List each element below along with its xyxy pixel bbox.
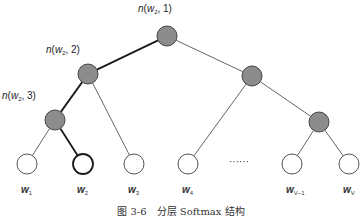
leaf-label-w4: w4 <box>182 184 193 196</box>
leaf-label-w2: w2 <box>77 184 88 196</box>
hierarchical-softmax-diagram: n(w2, 1)n(w2, 2)n(w2, 3)w1w2w3w4wV−1wV ·… <box>0 0 362 218</box>
ellipsis: ······ <box>229 156 249 167</box>
inner-node-root <box>157 26 177 46</box>
edge-r1-r2 <box>260 82 311 117</box>
edge-root-r1 <box>176 40 243 71</box>
leaf-node-w4 <box>178 154 198 174</box>
node-label-root: n(w2, 1) <box>138 3 172 15</box>
leaf-label-wV: wV <box>343 184 355 196</box>
inner-node-n2 <box>78 64 98 84</box>
node-label-n2: n(w2, 2) <box>46 44 80 56</box>
leaf-label-w1: w1 <box>21 184 32 196</box>
edge-n2-n3 <box>61 82 82 112</box>
leaf-label-w3: w3 <box>128 184 139 196</box>
figure-caption: 图 3-6 分层 Softmax 结构 <box>0 203 362 218</box>
edge-r1-w4 <box>194 84 246 156</box>
tree-graph <box>0 0 362 218</box>
edge-root-n2 <box>97 40 158 69</box>
edge-r2-wV-1 <box>297 130 313 155</box>
edge-n2-w3 <box>93 83 130 155</box>
inner-node-r2 <box>309 112 329 132</box>
leaf-node-w2 <box>73 154 93 174</box>
leaf-label-wV-1: wV−1 <box>286 184 305 196</box>
leaf-node-w1 <box>17 154 37 174</box>
edge-n3-w2 <box>60 128 77 155</box>
node-label-n3: n(w2, 3) <box>2 90 36 102</box>
inner-node-r1 <box>242 66 262 86</box>
leaf-node-wV <box>339 154 359 174</box>
edge-n3-w1 <box>32 128 49 155</box>
edge-r2-wV <box>325 130 343 156</box>
inner-node-n3 <box>45 110 65 130</box>
leaf-node-w3 <box>124 154 144 174</box>
leaf-node-wV-1 <box>282 154 302 174</box>
